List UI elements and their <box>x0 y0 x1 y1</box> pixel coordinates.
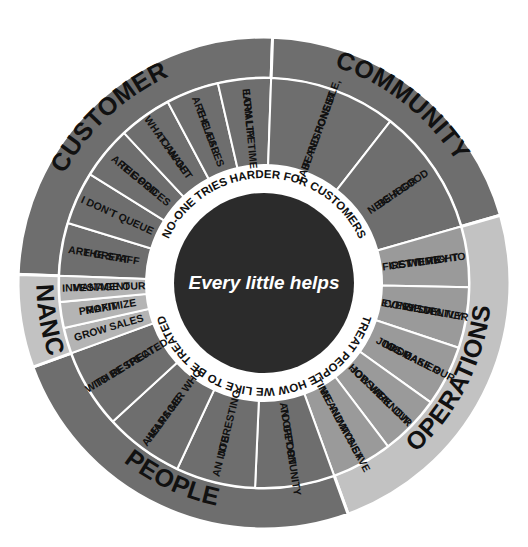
wheel-diagram: Every little helps CUSTOMERCOMMUNITYOPER… <box>0 0 528 547</box>
center-hub-layer: Every little helps <box>174 193 354 373</box>
segment-label-finance-2-line-1: INVESTMENT <box>62 280 131 294</box>
center-slogan: Every little helps <box>188 272 339 293</box>
steering-wheel-svg: Every little helps CUSTOMERCOMMUNITYOPER… <box>0 0 528 547</box>
